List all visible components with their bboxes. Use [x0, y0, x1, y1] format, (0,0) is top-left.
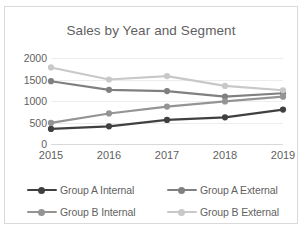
data-point-marker	[222, 114, 228, 120]
legend-label: Group B External	[200, 206, 279, 218]
data-point-marker	[164, 88, 170, 94]
legend-item[interactable]: Group A Internal	[27, 179, 167, 201]
data-point-marker	[222, 83, 228, 89]
data-point-marker	[280, 94, 286, 100]
legend-label: Group A Internal	[60, 184, 134, 196]
data-point-marker	[48, 78, 54, 84]
data-point-marker	[164, 103, 170, 109]
data-point-marker	[48, 126, 54, 132]
x-axis-tick-label: 2015	[39, 149, 63, 161]
legend-swatch-icon	[167, 184, 197, 196]
legend-row: Group B InternalGroup B External	[27, 201, 289, 223]
legend-label: Group B Internal	[60, 206, 135, 218]
legend-item[interactable]: Group B Internal	[27, 201, 167, 223]
data-point-marker	[280, 87, 286, 93]
legend-swatch-icon	[27, 184, 57, 196]
data-point-marker	[106, 123, 112, 129]
x-axis-line	[51, 144, 283, 145]
plot-area	[51, 58, 283, 144]
y-axis-tick-label: 1000	[7, 95, 47, 107]
data-point-marker	[106, 87, 112, 93]
data-point-marker	[164, 117, 170, 123]
legend-row: Group A InternalGroup A External	[27, 179, 289, 201]
y-axis-tick-label: 500	[7, 117, 47, 129]
legend-swatch-icon	[167, 206, 197, 218]
chart-legend: Group A InternalGroup A ExternalGroup B …	[27, 179, 289, 225]
data-point-marker	[48, 64, 54, 70]
x-axis: 20152016201720182019	[51, 149, 283, 165]
legend-label: Group A External	[200, 184, 278, 196]
legend-item[interactable]: Group B External	[167, 201, 289, 223]
y-axis: 0500100015002000	[5, 58, 47, 144]
x-axis-tick-label: 2017	[155, 149, 179, 161]
legend-item[interactable]: Group A External	[167, 179, 289, 201]
data-point-marker	[48, 120, 54, 126]
data-point-marker	[280, 107, 286, 113]
x-axis-tick-label: 2016	[97, 149, 121, 161]
data-point-marker	[106, 110, 112, 116]
y-axis-tick-label: 2000	[7, 52, 47, 64]
y-axis-tick-label: 1500	[7, 74, 47, 86]
x-axis-tick-label: 2019	[271, 149, 295, 161]
data-point-marker	[164, 73, 170, 79]
data-point-marker	[106, 76, 112, 82]
chart-title: Sales by Year and Segment	[5, 23, 297, 38]
x-axis-tick-label: 2018	[213, 149, 237, 161]
chart-container: Sales by Year and Segment 05001000150020…	[4, 6, 298, 224]
legend-swatch-icon	[27, 206, 57, 218]
data-point-marker	[222, 98, 228, 104]
series-layer	[51, 58, 283, 144]
